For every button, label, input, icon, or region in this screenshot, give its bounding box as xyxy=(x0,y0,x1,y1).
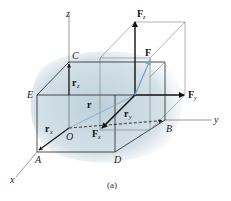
r-label: r xyxy=(87,99,92,110)
f-y-label: F y xyxy=(188,89,197,101)
svg-text:y: y xyxy=(128,114,132,120)
z-axis-label: z xyxy=(65,8,70,19)
point-d-label: D xyxy=(113,154,122,165)
point-o-label: O xyxy=(66,131,73,142)
point-c-label: C xyxy=(72,50,79,61)
point-a-label: A xyxy=(34,154,42,165)
svg-text:x: x xyxy=(97,134,101,140)
figure-caption: (a) xyxy=(107,180,117,190)
y-axis-label: y xyxy=(213,114,219,125)
f-z-label: F z xyxy=(137,8,146,20)
x-axis-label: x xyxy=(9,174,15,185)
point-e-label: E xyxy=(26,89,33,100)
point-b-label: B xyxy=(166,123,172,134)
svg-text:y: y xyxy=(193,95,197,101)
shaded-region xyxy=(31,51,183,162)
f-label: F xyxy=(145,47,151,58)
force-moment-diagram: z y x C E O A D B r r z r x r y F F z F … xyxy=(0,0,231,201)
svg-text:z: z xyxy=(142,14,146,20)
svg-text:x: x xyxy=(49,129,53,135)
x-axis xyxy=(16,152,37,177)
